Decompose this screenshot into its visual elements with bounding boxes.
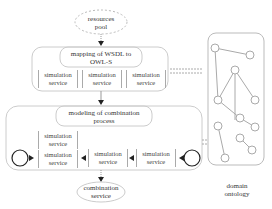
combination-line2: service <box>76 192 126 200</box>
mapping-service-2: simulation service <box>82 70 122 88</box>
diagram-canvas <box>0 0 272 209</box>
sequential-service-1: simulation service <box>88 149 128 167</box>
service-label: service <box>83 79 121 87</box>
modeling-line1: modeling of combination <box>56 109 152 117</box>
service-label: service <box>39 140 77 148</box>
mapping-service-3: simulation service <box>126 70 166 88</box>
mapping-node: mapping of WSDL to OWL-S <box>60 50 142 66</box>
domain-ontology-label: domain ontology <box>212 182 262 198</box>
combination-line1: combination <box>76 184 126 192</box>
service-label: service <box>39 79 77 87</box>
ontology-line1: domain <box>212 182 262 190</box>
service-label: simulation <box>39 151 77 159</box>
service-label: simulation <box>137 150 175 158</box>
resources-pool-line1: resources <box>76 15 126 23</box>
sequential-service-2: simulation service <box>136 149 176 167</box>
service-label: simulation <box>39 132 77 140</box>
service-label: simulation <box>39 71 77 79</box>
service-label: service <box>89 158 127 166</box>
service-label: service <box>39 159 77 167</box>
service-label: simulation <box>89 150 127 158</box>
parallel-service-1: simulation service <box>38 131 78 149</box>
resources-pool-node: resources pool <box>76 15 126 31</box>
modeling-node: modeling of combination process <box>56 109 152 125</box>
arrow-down-icon <box>98 41 104 46</box>
ontology-line2: ontology <box>212 190 262 198</box>
parallel-service-2: simulation service <box>38 150 78 168</box>
combination-service-node: combination service <box>76 184 126 200</box>
mapping-line2: OWL-S <box>60 58 142 66</box>
arrow-down-icon <box>98 100 104 105</box>
service-label: simulation <box>127 71 165 79</box>
service-label: simulation <box>83 71 121 79</box>
start-event-icon <box>12 150 28 166</box>
service-label: service <box>137 158 175 166</box>
service-label: service <box>127 79 165 87</box>
end-event-icon <box>184 150 200 166</box>
modeling-line2: process <box>56 117 152 125</box>
arrow-down-icon <box>98 177 104 182</box>
mapping-line1: mapping of WSDL to <box>60 50 142 58</box>
mapping-service-1: simulation service <box>38 70 78 88</box>
resources-pool-line2: pool <box>76 23 126 31</box>
